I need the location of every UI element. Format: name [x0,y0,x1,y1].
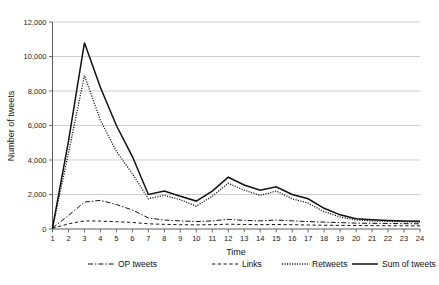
y-tick-label: 12,000 [24,18,47,27]
y-tick-label: 10,000 [24,52,47,61]
x-axis-ticks [53,229,421,233]
y-axis-tick-labels: 02,0004,0006,0008,00010,00012,000 [24,18,47,234]
legend-label-op-tweets: OP tweets [118,259,157,269]
series-group [53,43,421,229]
x-tick-label: 2 [66,234,70,243]
y-tick-label: 4,000 [28,156,47,165]
y-tick-label: 6,000 [28,121,47,130]
chart-legend: OP tweetsLinksRetweetsSum of tweets [88,259,436,269]
x-tick-label: 19 [336,234,344,243]
x-tick-label: 21 [368,234,376,243]
x-tick-label: 5 [114,234,118,243]
y-tick-label: 2,000 [28,190,47,199]
x-tick-label: 13 [240,234,248,243]
y-axis-ticks [49,22,53,229]
series-line-retweets [53,75,421,228]
series-line-op-tweets [53,200,421,228]
y-tick-label: 0 [42,225,46,234]
gridlines [53,22,421,195]
x-tick-label: 8 [162,234,166,243]
x-tick-label: 6 [130,234,134,243]
x-tick-label: 22 [384,234,392,243]
x-tick-label: 4 [98,234,102,243]
x-tick-label: 17 [304,234,312,243]
legend-label-links: Links [242,259,262,269]
y-axis-title: Number of tweets [6,90,16,161]
x-tick-label: 7 [146,234,150,243]
x-tick-label: 12 [224,234,232,243]
x-axis-tick-labels: 123456789101112131415161718192021222324 [50,234,424,243]
legend-label-retweets: Retweets [312,259,347,269]
x-tick-label: 9 [178,234,182,243]
chart-figure: 02,0004,0006,0008,00010,00012,000 123456… [0,0,439,285]
x-tick-label: 1 [50,234,54,243]
series-line-links [53,221,421,228]
x-tick-label: 23 [400,234,408,243]
x-tick-label: 16 [288,234,296,243]
x-tick-label: 18 [320,234,328,243]
x-tick-label: 20 [352,234,360,243]
x-tick-label: 3 [82,234,86,243]
legend-label-sum-of-tweets: Sum of tweets [382,259,436,269]
line-chart: 02,0004,0006,0008,00010,00012,000 123456… [0,0,439,285]
x-tick-label: 14 [256,234,264,243]
x-tick-label: 15 [272,234,280,243]
x-axis-title: Time [226,247,246,257]
x-tick-label: 10 [192,234,200,243]
x-tick-label: 24 [416,234,424,243]
y-tick-label: 8,000 [28,87,47,96]
x-tick-label: 11 [208,234,216,243]
